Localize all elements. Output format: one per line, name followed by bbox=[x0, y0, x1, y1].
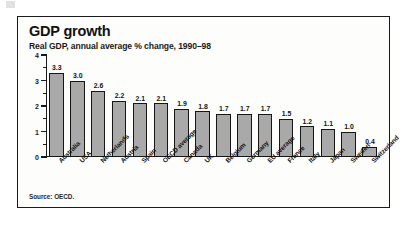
figure-frame: GDP growth Real GDP, annual average % ch… bbox=[17, 16, 390, 208]
bar-group[interactable]: 1.7 bbox=[216, 114, 231, 157]
bar-value-label: 2.6 bbox=[94, 82, 104, 89]
bar-group[interactable]: 2.1 bbox=[154, 103, 169, 157]
y-tick-label: 3 bbox=[35, 77, 39, 84]
y-tick-label: 1 bbox=[35, 128, 39, 135]
bar-value-label: 3.3 bbox=[52, 64, 62, 71]
source-note: Source: OECD. bbox=[29, 193, 74, 200]
bar-value-label: 1.2 bbox=[303, 118, 313, 125]
bar-value-label: 1.7 bbox=[219, 105, 229, 112]
y-tick-label: 4 bbox=[35, 52, 39, 59]
bar-value-label: 1.7 bbox=[261, 105, 271, 112]
bar-value-label: 2.2 bbox=[115, 92, 125, 99]
bar-value-label: 1.8 bbox=[198, 103, 208, 110]
bar[interactable] bbox=[49, 73, 64, 157]
bar-value-label: 1.0 bbox=[344, 123, 354, 130]
y-tick-label: 0 bbox=[35, 154, 39, 161]
plot-area: 01234 3.33.02.62.22.12.11.91.81.71.71.71… bbox=[46, 55, 380, 157]
bar-value-label: 1.1 bbox=[323, 120, 333, 127]
bar-value-label: 1.9 bbox=[177, 100, 187, 107]
bar-value-label: 2.1 bbox=[156, 95, 166, 102]
scan-artifact bbox=[6, 1, 15, 8]
y-tick-label: 2 bbox=[35, 103, 39, 110]
x-axis-labels: AustraliaUSANetherlandsAustriaSpainOECD … bbox=[46, 159, 380, 209]
chart-subtitle: Real GDP, annual average % change, 1990–… bbox=[29, 41, 211, 51]
bar-value-label: 1.7 bbox=[240, 105, 250, 112]
page-title: GDP growth bbox=[29, 23, 111, 39]
bar-group[interactable]: 2.6 bbox=[91, 91, 106, 157]
bar-value-label: 1.5 bbox=[282, 110, 292, 117]
bar-group[interactable]: 3.3 bbox=[49, 73, 64, 157]
bar-value-label: 2.1 bbox=[136, 95, 146, 102]
bar-value-label: 3.0 bbox=[73, 72, 83, 79]
bar[interactable] bbox=[216, 114, 231, 157]
bar[interactable] bbox=[154, 103, 169, 157]
bars-layer: 3.33.02.62.22.12.11.91.81.71.71.71.51.21… bbox=[46, 55, 380, 157]
bar[interactable] bbox=[91, 91, 106, 157]
